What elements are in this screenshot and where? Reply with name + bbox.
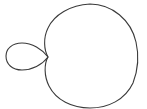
outer-lobe-curve (45, 4, 138, 108)
inner-loop-curve (6, 43, 48, 70)
limacon-figure (0, 0, 147, 109)
figure-canvas: Limaçon-shaped closed curve with a small… (0, 0, 147, 109)
